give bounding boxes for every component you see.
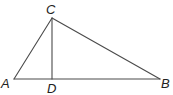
point-label-d: D: [47, 81, 56, 95]
triangle-diagram: A C B D: [0, 0, 173, 95]
segment-cb: [52, 18, 160, 79]
vertex-label-a: A: [0, 76, 10, 91]
vertex-label-c: C: [46, 2, 56, 17]
segment-ac: [14, 18, 52, 79]
vertex-label-b: B: [161, 76, 170, 91]
